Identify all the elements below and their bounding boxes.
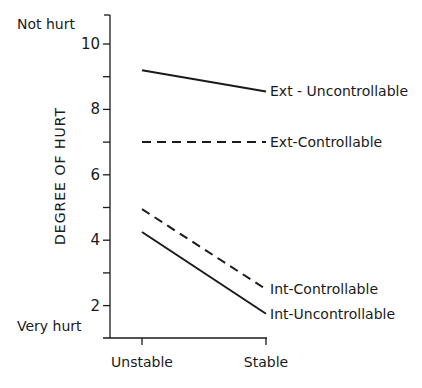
series-line [142, 70, 266, 91]
y-tick-label: 2 [90, 297, 100, 315]
series-lines: Ext - UncontrollableExt-ControllableInt-… [142, 70, 408, 322]
y-tick-label: 10 [81, 35, 100, 53]
x-tick-label: Stable [244, 354, 288, 370]
y-annotation-top: Not hurt [17, 16, 75, 32]
series-line [142, 232, 266, 314]
y-tick-label: 8 [90, 100, 100, 118]
series-int-controllable: Int-Controllable [142, 209, 378, 297]
y-axis-title: DEGREE OF HURT [52, 107, 68, 245]
x-tick-label: Unstable [111, 354, 173, 370]
series-line [142, 209, 266, 289]
series-int-uncontrollable: Int-Uncontrollable [142, 232, 395, 322]
y-tick-label: 6 [90, 166, 100, 184]
series-label: Ext-Controllable [270, 134, 382, 150]
series-ext-uncontrollable: Ext - Uncontrollable [142, 70, 408, 99]
series-ext-controllable: Ext-Controllable [142, 134, 382, 150]
series-label: Ext - Uncontrollable [270, 83, 408, 99]
y-tick-label: 4 [90, 231, 100, 249]
series-label: Int-Controllable [270, 281, 378, 297]
y-annotation-bottom: Very hurt [17, 318, 82, 334]
x-axis: UnstableStable [103, 338, 288, 370]
line-chart: 246810 UnstableStable Ext - Uncontrollab… [0, 0, 422, 388]
series-label: Int-Uncontrollable [270, 306, 395, 322]
y-axis: 246810 [81, 15, 110, 338]
